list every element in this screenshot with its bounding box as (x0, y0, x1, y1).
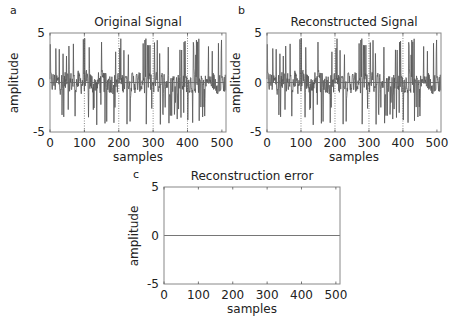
panel-c-ylabel: amplitude (127, 206, 141, 267)
y-tick-label: 5 (254, 26, 262, 40)
panel-a-plot: 010020030040050050-5 (33, 26, 233, 150)
panel-c-xlabel: samples (227, 302, 277, 316)
x-tick-label: 0 (46, 136, 54, 150)
y-tick-label: -5 (33, 125, 45, 139)
signal-line (50, 38, 226, 124)
panel-b-plot: 010020030040050050-5 (250, 26, 448, 150)
x-tick-label: 500 (210, 136, 233, 150)
y-tick-label: -5 (147, 277, 159, 291)
x-tick-label: 400 (391, 136, 414, 150)
panel-b-ylabel: amplitude (229, 53, 243, 114)
x-tick-label: 300 (256, 288, 279, 302)
x-tick-label: 100 (290, 136, 313, 150)
panel-letter-c: c (133, 168, 139, 181)
panel-c-plot: 010020030040050050-5 (147, 180, 347, 302)
y-tick-label: 0 (37, 76, 45, 90)
x-tick-label: 400 (176, 136, 199, 150)
panel-c-title: Reconstruction error (191, 169, 314, 183)
x-tick-label: 0 (160, 288, 168, 302)
x-tick-label: 400 (290, 288, 313, 302)
panel-a-ylabel: amplitude (7, 53, 21, 114)
x-tick-label: 500 (425, 136, 448, 150)
signal-line (267, 38, 441, 124)
x-tick-label: 200 (324, 136, 347, 150)
x-tick-label: 500 (324, 288, 347, 302)
panel-a-xlabel: samples (113, 150, 163, 164)
x-tick-label: 300 (142, 136, 165, 150)
x-tick-label: 200 (107, 136, 130, 150)
y-tick-label: 5 (151, 180, 159, 194)
panel-letter-b: b (238, 4, 245, 17)
y-tick-label: -5 (250, 125, 262, 139)
panel-b: b Reconstructed Signal amplitude samples… (229, 4, 448, 164)
panel-a-title: Original Signal (94, 15, 182, 29)
panel-letter-a: a (10, 4, 17, 17)
x-tick-label: 100 (73, 136, 96, 150)
panel-b-title: Reconstructed Signal (290, 15, 417, 29)
y-tick-label: 5 (37, 26, 45, 40)
x-tick-label: 300 (358, 136, 381, 150)
y-tick-label: 0 (254, 76, 262, 90)
y-tick-label: 0 (151, 229, 159, 243)
panel-b-xlabel: samples (329, 150, 379, 164)
x-tick-label: 200 (221, 288, 244, 302)
figure: a Original Signal amplitude samples 0100… (0, 0, 460, 324)
panel-a: a Original Signal amplitude samples 0100… (7, 4, 233, 164)
x-tick-label: 0 (263, 136, 271, 150)
x-tick-label: 100 (187, 288, 210, 302)
panel-c: c Reconstruction error amplitude samples… (127, 168, 347, 316)
